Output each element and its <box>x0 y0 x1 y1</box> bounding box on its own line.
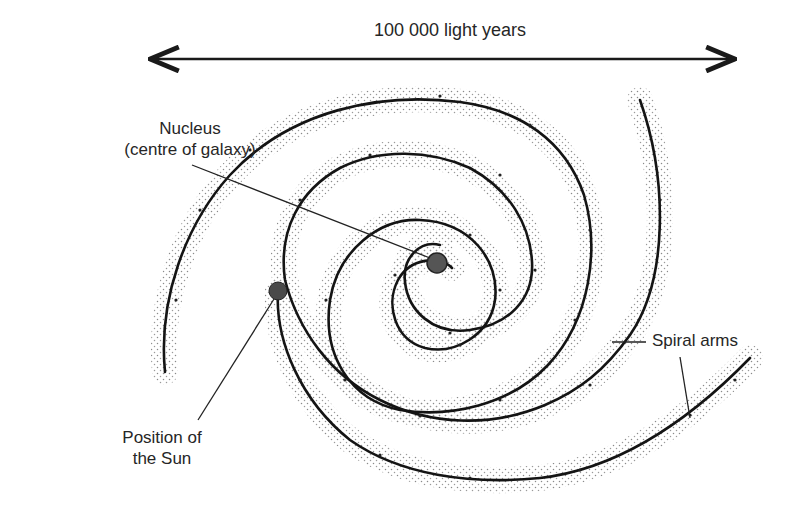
sun-label: Position of the Sun <box>92 427 232 469</box>
sun-position-marker <box>269 282 287 300</box>
spiral-arms-label: Spiral arms <box>652 330 738 351</box>
nucleus-label-line1: Nucleus <box>100 118 280 139</box>
nucleus-label: Nucleus (centre of galaxy) <box>100 118 280 160</box>
scale-label: 100 000 light years <box>300 20 600 41</box>
sun-label-line1: Position of <box>92 427 232 448</box>
nucleus-icon <box>427 253 447 273</box>
sun-label-line2: the Sun <box>92 448 232 469</box>
sun-leader-line <box>198 299 274 420</box>
nucleus-label-line2: (centre of galaxy) <box>100 139 280 160</box>
